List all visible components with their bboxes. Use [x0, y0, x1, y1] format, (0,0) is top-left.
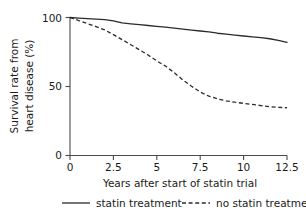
x-axis-title: Years after start of statin trial — [102, 177, 257, 189]
y-axis-ticks — [66, 18, 71, 156]
y-axis-tick-labels: 0 50 100 — [42, 12, 62, 162]
legend-label-no-statin-treatment: no statin treatment — [216, 197, 306, 209]
series-line-statin-treatment — [70, 18, 287, 43]
x-tick-label-10: 10 — [237, 161, 250, 173]
legend-label-statin-treatment: statin treatment — [96, 197, 182, 209]
series-line-no-statin-treatment — [70, 18, 287, 108]
y-tick-label-50: 50 — [49, 80, 62, 92]
chart-figure: 0 50 100 0 2.5 5 7.5 10 12.5 Years after… — [0, 0, 306, 220]
x-axis-tick-labels: 0 2.5 5 7.5 10 12.5 — [67, 161, 299, 173]
x-tick-label-7-5: 7.5 — [192, 161, 209, 173]
x-axis-ticks — [70, 156, 287, 161]
y-tick-label-0: 0 — [55, 149, 62, 161]
y-axis-title-line1: Survival rate from — [8, 39, 20, 134]
x-tick-label-2-5: 2.5 — [105, 161, 122, 173]
chart-legend: statin treatment no statin treatment — [62, 197, 306, 209]
survival-rate-line-chart: 0 50 100 0 2.5 5 7.5 10 12.5 Years after… — [0, 0, 306, 220]
y-tick-label-100: 100 — [42, 12, 62, 24]
x-tick-label-12-5: 12.5 — [275, 161, 298, 173]
y-axis-title-line2: heart disease (%) — [23, 40, 35, 133]
x-tick-label-0: 0 — [67, 161, 74, 173]
x-tick-label-5: 5 — [153, 161, 160, 173]
